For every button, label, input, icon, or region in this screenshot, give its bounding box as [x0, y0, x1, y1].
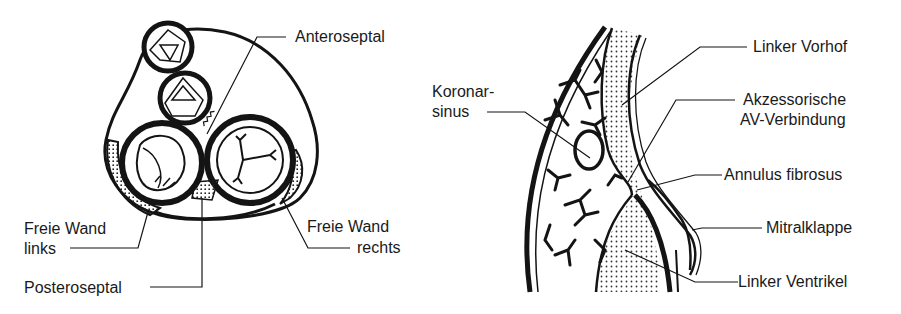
label-anteroseptal: Anteroseptal — [295, 27, 385, 46]
label-akzessorische-line1: Akzessorische — [743, 90, 846, 109]
label-koronarsinus-line2: sinus — [432, 102, 469, 121]
diagram-canvas: Anteroseptal Freie Wand links Freie Wand… — [0, 0, 901, 314]
label-freie-wand-rechts-line1: Freie Wand — [307, 217, 389, 236]
label-linker-vorhof: Linker Vorhof — [753, 37, 847, 56]
label-freie-wand-links-line2: links — [24, 239, 56, 258]
label-akzessorische-line2: AV-Verbindung — [740, 110, 846, 129]
label-linker-ventrikel: Linker Ventrikel — [738, 272, 847, 291]
label-freie-wand-rechts-line2: rechts — [357, 238, 401, 257]
label-mitralklappe: Mitralklappe — [766, 218, 852, 237]
label-posteroseptal: Posteroseptal — [24, 278, 122, 297]
label-annulus-fibrosus: Annulus fibrosus — [724, 165, 842, 184]
label-freie-wand-links-line1: Freie Wand — [24, 219, 106, 238]
label-koronarsinus-line1: Koronar- — [432, 82, 494, 101]
